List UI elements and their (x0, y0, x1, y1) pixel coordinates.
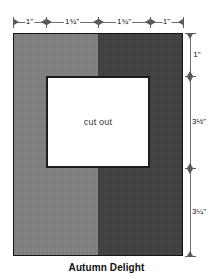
vertical-dimension-label-0: 1" (192, 51, 201, 59)
horizontal-arrow-2-right (99, 19, 104, 25)
vertical-arrow-1-down (187, 77, 193, 82)
horizontal-dimension-label-2: 1¾" (116, 18, 132, 26)
vertical-ruler-line (190, 33, 191, 256)
horizontal-arrow-0-right (14, 19, 19, 25)
horizontal-arrow-3-right (151, 19, 156, 25)
horizontal-arrow-1-right (47, 19, 52, 25)
vertical-arrow-1-up (187, 71, 193, 76)
horizontal-dimension-label-3: 1" (162, 18, 171, 26)
vertical-arrow-0-down (187, 34, 193, 39)
horizontal-tick-4 (183, 17, 184, 28)
cutout-label: cut out (84, 118, 112, 127)
horizontal-arrow-4-left (178, 19, 183, 25)
horizontal-dimension-label-0: 1" (25, 18, 34, 26)
horizontal-arrow-2-left (93, 19, 98, 25)
horizontal-arrow-3-left (145, 19, 150, 25)
vertical-arrow-2-up (187, 163, 193, 168)
vertical-dimension-label-1: 3½" (191, 118, 207, 126)
vertical-dimension-label-2: 3¼" (191, 208, 207, 216)
horizontal-arrow-1-left (41, 19, 46, 25)
horizontal-dimension-label-1: 1¾" (64, 18, 80, 26)
vertical-arrow-2-down (187, 169, 193, 174)
diagram-title: Autumn Delight (0, 262, 213, 273)
diagram-canvas: 1" 1¾" 1¾" 1" cut out 1" 3½" 3¼" Autumn … (0, 0, 213, 279)
cutout-window: cut out (46, 76, 150, 168)
vertical-arrow-3-up (187, 251, 193, 256)
vertical-tick-3 (185, 256, 196, 257)
